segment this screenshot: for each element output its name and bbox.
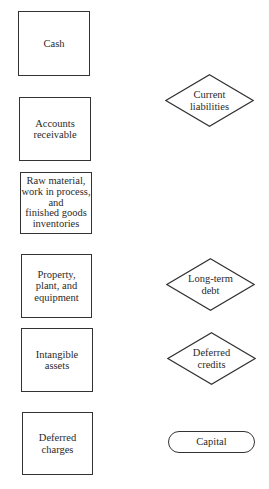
cash-label: Cash [44, 38, 65, 50]
accounts-receivable-box: Accounts receivable [19, 97, 91, 161]
cash-box: Cash [18, 11, 90, 76]
long-term-debt-label: Long-term debt [188, 273, 233, 296]
capital-pill: Capital [168, 431, 255, 453]
property-plant-equipment-box: Property, plant, and equipment [21, 254, 92, 318]
accounts-receivable-label: Accounts receivable [33, 118, 76, 141]
deferred-credits-label: Deferred credits [193, 347, 230, 370]
current-liabilities-label: Current liabilities [190, 89, 229, 112]
deferred-charges-box: Deferred charges [22, 412, 93, 475]
deferred-charges-label: Deferred charges [39, 432, 76, 455]
property-plant-equipment-label: Property, plant, and equipment [34, 269, 78, 304]
inventories-label: Raw material, work in process, and finis… [21, 176, 90, 230]
inventories-box: Raw material, work in process, and finis… [20, 172, 92, 234]
long-term-debt-diamond: Long-term debt [166, 258, 255, 311]
intangible-assets-box: Intangible assets [21, 328, 93, 392]
intangible-assets-label: Intangible assets [36, 349, 79, 372]
current-liabilities-diamond: Current liabilities [165, 74, 254, 127]
deferred-credits-diamond: Deferred credits [167, 332, 256, 385]
capital-label: Capital [196, 436, 226, 448]
